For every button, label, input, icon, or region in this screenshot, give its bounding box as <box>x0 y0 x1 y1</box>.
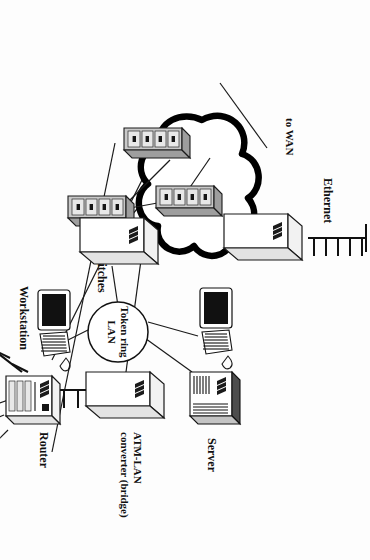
network-diagram-svg: ATM Switches to WAN <box>0 0 370 560</box>
atm-switch-2[interactable] <box>124 128 190 158</box>
diagram-canvas: ATM Switches to WAN <box>0 0 370 560</box>
atm-lan-converter-label-2: converter (bridge) <box>118 432 131 518</box>
pc-top[interactable] <box>200 288 232 369</box>
tokenring-switch[interactable] <box>80 218 158 264</box>
ethernet-bus <box>308 224 366 256</box>
router-label: Router <box>37 432 51 469</box>
atm-lan-converter[interactable] <box>86 372 164 418</box>
to-wan-label: to WAN <box>284 118 296 155</box>
token-ring-lan[interactable]: Token ring LAN <box>88 302 148 362</box>
atm-switch-1[interactable] <box>156 186 222 216</box>
token-ring-lan-circle <box>88 302 148 362</box>
wire-router-tr1 <box>0 415 4 432</box>
workstation[interactable] <box>38 290 70 371</box>
atm-lan-converter-label-1: ATM-LAN <box>132 432 144 484</box>
ethernet-switch[interactable] <box>224 214 302 260</box>
wire-trsw-ring <box>112 266 118 306</box>
server-label: Server <box>205 438 219 473</box>
server[interactable] <box>190 372 240 424</box>
token-ring-lan-label-1: Token ring <box>119 306 131 358</box>
figure-page: ATM Switches to WAN <box>0 0 370 560</box>
router-led <box>42 404 49 411</box>
ethernet-label: Ethernet <box>321 178 335 223</box>
workstation-label: Workstation <box>17 286 31 350</box>
wire-ring-server <box>142 336 192 372</box>
wire-router-tr2 <box>0 430 8 472</box>
token-ring-lan-label-2: LAN <box>106 320 118 343</box>
router[interactable] <box>6 376 60 424</box>
wire-ring-pc-top <box>148 322 198 336</box>
